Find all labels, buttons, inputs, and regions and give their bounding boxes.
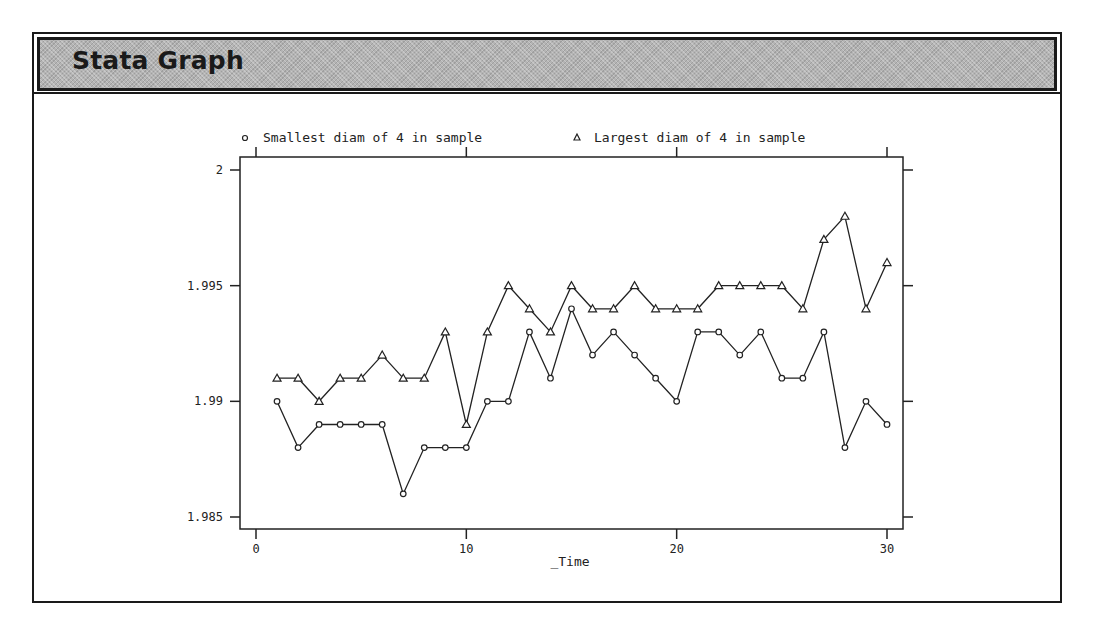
circle-marker <box>527 329 533 335</box>
circle-marker <box>884 422 890 428</box>
circle-marker <box>590 352 596 358</box>
axes: 1.9851.991.99520102030 <box>187 147 913 556</box>
circle-marker <box>716 329 722 335</box>
circle-marker <box>548 375 554 381</box>
circle-marker <box>842 445 848 451</box>
circle-marker <box>337 422 343 428</box>
circle-marker <box>737 352 743 358</box>
circle-marker <box>316 422 322 428</box>
triangle-marker <box>378 351 386 358</box>
legend-circle-icon <box>243 136 248 141</box>
circle-marker <box>400 491 406 497</box>
circle-marker <box>443 445 449 451</box>
legend-label-largest: Largest diam of 4 in sample <box>594 130 805 145</box>
plot-area <box>240 157 903 529</box>
circle-marker <box>653 375 659 381</box>
circle-marker <box>379 422 385 428</box>
chart-legend: Smallest diam of 4 in sampleLargest diam… <box>243 130 806 145</box>
circle-marker <box>632 352 638 358</box>
triangle-marker <box>441 328 449 335</box>
y-tick-label: 1.99 <box>194 394 223 408</box>
x-tick-label: 20 <box>669 542 683 556</box>
line-chart: Smallest diam of 4 in sampleLargest diam… <box>0 0 1094 633</box>
triangle-marker <box>883 259 891 266</box>
circle-marker <box>358 422 364 428</box>
legend-triangle-icon <box>574 134 580 140</box>
triangle-marker <box>568 282 576 289</box>
triangle-marker <box>841 212 849 219</box>
y-tick-label: 2 <box>216 163 223 177</box>
circle-marker <box>821 329 827 335</box>
x-tick-label: 30 <box>880 542 894 556</box>
circle-marker <box>674 399 680 405</box>
circle-marker <box>611 329 617 335</box>
data-series <box>273 212 891 496</box>
legend-label-smallest: Smallest diam of 4 in sample <box>263 130 482 145</box>
circle-marker <box>758 329 764 335</box>
series-line <box>277 309 887 494</box>
circle-marker <box>274 399 280 405</box>
circle-marker <box>506 399 512 405</box>
series-line <box>277 216 887 424</box>
x-tick-label: 0 <box>252 542 259 556</box>
triangle-marker <box>862 305 870 312</box>
x-tick-label: 10 <box>459 542 473 556</box>
triangle-marker <box>631 282 639 289</box>
x-axis-label: _Time <box>550 554 589 569</box>
circle-marker <box>421 445 427 451</box>
triangle-marker <box>462 420 470 427</box>
circle-marker <box>779 375 785 381</box>
circle-marker <box>800 375 806 381</box>
y-tick-label: 1.995 <box>187 279 223 293</box>
triangle-marker <box>504 282 512 289</box>
circle-marker <box>464 445 470 451</box>
y-tick-label: 1.985 <box>187 510 223 524</box>
circle-marker <box>295 445 301 451</box>
triangle-marker <box>483 328 491 335</box>
circle-marker <box>485 399 491 405</box>
circle-marker <box>695 329 701 335</box>
circle-marker <box>863 399 869 405</box>
circle-marker <box>569 306 575 312</box>
